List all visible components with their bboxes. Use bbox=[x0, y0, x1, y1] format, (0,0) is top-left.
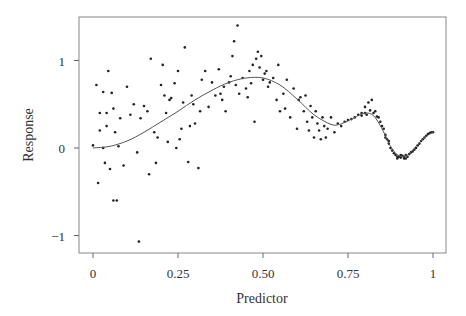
data-point bbox=[187, 161, 190, 164]
data-point bbox=[250, 82, 253, 85]
data-point bbox=[136, 151, 139, 154]
data-point bbox=[320, 138, 323, 141]
data-point bbox=[246, 96, 249, 99]
y-tick-label: 1 bbox=[59, 54, 66, 69]
data-point bbox=[161, 64, 164, 67]
data-point bbox=[163, 94, 166, 97]
x-tick-label: 0.50 bbox=[252, 266, 275, 281]
data-point bbox=[257, 50, 260, 53]
data-point bbox=[364, 106, 367, 109]
data-point bbox=[255, 58, 258, 61]
x-tick-label: 0.75 bbox=[337, 266, 360, 281]
data-point bbox=[396, 157, 399, 160]
data-point bbox=[97, 182, 100, 185]
data-point bbox=[178, 138, 181, 141]
data-point bbox=[314, 110, 317, 113]
data-point bbox=[275, 99, 278, 102]
data-point bbox=[299, 96, 302, 99]
data-point bbox=[160, 84, 163, 87]
data-point bbox=[107, 70, 110, 73]
data-point bbox=[109, 168, 112, 171]
data-point bbox=[207, 106, 210, 109]
data-point bbox=[156, 136, 159, 139]
data-point bbox=[306, 121, 309, 124]
data-point bbox=[289, 116, 292, 119]
data-point bbox=[340, 125, 343, 128]
data-point bbox=[318, 129, 321, 132]
data-point bbox=[326, 128, 329, 131]
data-point bbox=[405, 157, 408, 160]
data-point bbox=[296, 128, 299, 131]
data-point bbox=[155, 162, 158, 165]
data-point bbox=[190, 94, 193, 97]
data-point bbox=[192, 103, 195, 106]
data-point bbox=[231, 55, 234, 58]
data-point bbox=[277, 64, 280, 67]
data-point bbox=[170, 97, 173, 100]
data-point bbox=[245, 87, 248, 90]
data-point bbox=[223, 86, 226, 89]
data-point bbox=[248, 70, 251, 73]
data-point bbox=[221, 99, 224, 102]
data-point bbox=[219, 93, 222, 96]
data-point bbox=[199, 110, 202, 113]
data-point bbox=[292, 87, 295, 90]
data-point bbox=[177, 70, 180, 73]
data-point bbox=[262, 79, 265, 82]
scatter-plot: 00.250.500.751 −101 Predictor Response bbox=[0, 0, 466, 316]
data-point bbox=[99, 129, 102, 132]
data-point bbox=[95, 84, 98, 87]
data-point bbox=[238, 93, 241, 96]
data-point bbox=[117, 145, 120, 148]
data-point bbox=[267, 86, 270, 89]
data-point bbox=[197, 167, 200, 170]
data-point bbox=[377, 116, 380, 119]
data-point bbox=[253, 121, 256, 124]
data-point bbox=[184, 46, 187, 49]
data-point bbox=[182, 101, 185, 104]
data-point bbox=[272, 77, 275, 80]
fitted-curve bbox=[93, 77, 433, 156]
data-point bbox=[284, 107, 287, 110]
data-point bbox=[138, 240, 141, 243]
data-point bbox=[330, 116, 333, 119]
data-point bbox=[204, 70, 207, 73]
data-point bbox=[139, 117, 142, 120]
x-tick-label: 1 bbox=[430, 266, 437, 281]
data-point bbox=[303, 110, 306, 113]
data-point bbox=[367, 101, 370, 104]
data-point bbox=[173, 82, 176, 85]
data-point bbox=[99, 112, 102, 115]
data-point bbox=[167, 141, 170, 144]
data-point bbox=[224, 110, 227, 113]
data-point bbox=[265, 70, 268, 73]
data-point bbox=[374, 110, 377, 113]
data-point bbox=[119, 117, 122, 120]
data-point bbox=[102, 91, 105, 94]
data-point bbox=[92, 144, 95, 147]
data-point bbox=[233, 40, 236, 43]
scatter-points bbox=[92, 24, 435, 243]
data-point bbox=[236, 24, 239, 27]
data-point bbox=[189, 125, 192, 128]
data-point bbox=[229, 75, 232, 78]
data-point bbox=[313, 136, 316, 139]
data-point bbox=[112, 107, 115, 110]
data-point bbox=[153, 131, 156, 134]
data-point bbox=[150, 58, 153, 61]
data-point bbox=[105, 112, 108, 115]
data-point bbox=[129, 114, 132, 117]
data-point bbox=[282, 93, 285, 96]
data-point bbox=[316, 122, 319, 125]
data-point bbox=[260, 55, 263, 58]
data-point bbox=[175, 147, 178, 150]
data-point bbox=[104, 162, 107, 165]
x-axis-title: Predictor bbox=[236, 291, 288, 306]
y-tick-label: 0 bbox=[59, 141, 66, 156]
data-point bbox=[304, 94, 307, 97]
x-tick-label: 0 bbox=[90, 266, 97, 281]
data-point bbox=[105, 125, 108, 128]
data-point bbox=[201, 79, 204, 82]
x-tick-label: 0.25 bbox=[167, 266, 190, 281]
data-point bbox=[333, 131, 336, 134]
